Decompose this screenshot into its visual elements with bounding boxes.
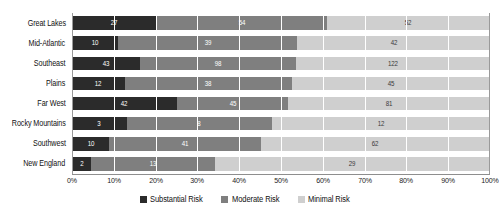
bar-segment: 45 <box>177 97 289 111</box>
category-label: Mid-Atlantic <box>29 33 69 53</box>
bar-segment: 52 <box>327 16 490 30</box>
bar-segment: 2 <box>72 157 91 171</box>
bar-value-label: 29 <box>349 160 356 168</box>
bar-segment: 10 <box>72 137 109 151</box>
bar-value-label: 42 <box>121 100 128 108</box>
legend-item[interactable]: Substantial Risk <box>140 194 209 204</box>
bar-segment: 54 <box>157 16 327 30</box>
bar-rows: 2754521039424398122123845424581381210416… <box>72 13 490 174</box>
x-tick-label: 30% <box>191 176 205 185</box>
category-label: New England <box>24 154 69 174</box>
bar-value-label: 3 <box>98 120 101 128</box>
x-tick-label: 0% <box>67 176 77 185</box>
plot-area: 2754521039424398122123845424581381210416… <box>72 13 490 174</box>
bar-segment: 29 <box>215 157 490 171</box>
bar-row: 4398122 <box>72 57 490 71</box>
bar-value-label: 52 <box>405 19 412 27</box>
category-label: Rocky Mountains <box>12 114 69 134</box>
bar-value-label: 62 <box>372 140 379 148</box>
x-tick-label: 50% <box>274 176 288 185</box>
bar-value-label: 39 <box>204 39 211 47</box>
bar-row: 123845 <box>72 77 490 91</box>
bar-value-label: 41 <box>182 140 189 148</box>
bar-value-label: 45 <box>388 80 395 88</box>
bar-value-label: 10 <box>87 140 94 148</box>
bar-segment: 122 <box>296 57 490 71</box>
legend-label: Moderate Risk <box>232 194 279 204</box>
bar-row: 3812 <box>72 117 490 131</box>
bar-segment: 38 <box>125 77 292 91</box>
x-tick-label: 100% <box>481 176 498 185</box>
chart-legend: Substantial RiskModerate RiskMinimal Ris… <box>0 194 494 204</box>
category-label: Southwest <box>33 134 69 154</box>
legend-item[interactable]: Moderate Risk <box>221 194 284 204</box>
bar-segment: 27 <box>72 16 157 30</box>
bar-segment: 43 <box>72 57 140 71</box>
bar-row: 424581 <box>72 97 490 111</box>
bar-segment: 45 <box>292 77 490 91</box>
bar-segment: 41 <box>109 137 261 151</box>
bar-segment: 13 <box>91 157 215 171</box>
x-tick-label: 20% <box>149 176 163 185</box>
bar-value-label: 38 <box>205 80 212 88</box>
category-label: Great Lakes <box>27 13 69 33</box>
x-tick-label: 10% <box>107 176 121 185</box>
bar-row: 275452 <box>72 16 490 30</box>
x-tick-label: 60% <box>316 176 330 185</box>
x-tick-label: 70% <box>358 176 372 185</box>
legend-label: Substantial Risk <box>150 194 203 204</box>
bar-value-label: 54 <box>238 19 245 27</box>
bar-segment: 81 <box>288 97 490 111</box>
bar-value-label: 8 <box>198 120 201 128</box>
category-label: Southeast <box>34 53 69 73</box>
x-tick-label: 40% <box>232 176 246 185</box>
bar-value-label: 122 <box>388 60 398 68</box>
bar-segment: 98 <box>140 57 296 71</box>
bar-segment: 42 <box>297 36 490 50</box>
bar-segment: 10 <box>72 36 118 50</box>
bar-value-label: 13 <box>149 160 156 168</box>
x-axis-line <box>72 174 490 175</box>
bar-row: 103942 <box>72 36 490 50</box>
bar-value-label: 98 <box>215 60 222 68</box>
bar-value-label: 12 <box>95 80 102 88</box>
x-tick-label: 90% <box>441 176 455 185</box>
bar-value-label: 2 <box>80 160 83 168</box>
bar-segment: 3 <box>72 117 127 131</box>
legend-label: Minimal Risk <box>308 194 350 204</box>
bar-segment: 12 <box>72 77 125 91</box>
legend-swatch-icon <box>140 196 147 203</box>
bar-value-label: 81 <box>386 100 393 108</box>
bar-segment: 42 <box>72 97 177 111</box>
bar-value-label: 12 <box>378 120 385 128</box>
legend-item[interactable]: Minimal Risk <box>298 194 355 204</box>
x-axis-ticks: 0%10%20%30%40%50%60%70%80%90%100% <box>72 176 490 190</box>
bar-row: 104162 <box>72 137 490 151</box>
bar-segment: 8 <box>127 117 272 131</box>
legend-swatch-icon <box>221 196 228 203</box>
x-tick-label: 80% <box>400 176 414 185</box>
bar-value-label: 43 <box>103 60 110 68</box>
bar-value-label: 27 <box>111 19 118 27</box>
bar-segment: 62 <box>261 137 490 151</box>
bar-value-label: 10 <box>92 39 99 47</box>
category-label: Plains <box>46 73 69 93</box>
bar-value-label: 42 <box>390 39 397 47</box>
bar-value-label: 45 <box>229 100 236 108</box>
bar-segment: 39 <box>118 36 297 50</box>
bar-segment: 12 <box>272 117 490 131</box>
legend-swatch-icon <box>298 196 305 203</box>
category-label: Far West <box>37 94 69 114</box>
category-axis: Great LakesMid-AtlanticSoutheastPlainsFa… <box>0 13 69 174</box>
bar-row: 21329 <box>72 157 490 171</box>
